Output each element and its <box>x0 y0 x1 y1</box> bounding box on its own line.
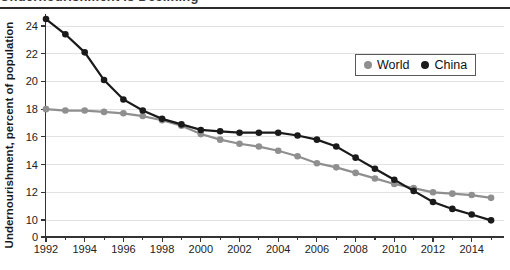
china-marker-icon <box>421 61 429 69</box>
world-data-point <box>236 140 243 147</box>
china-data-point <box>294 132 301 139</box>
china-data-point <box>178 121 185 128</box>
china-data-point <box>449 206 456 213</box>
china-data-point <box>333 143 340 150</box>
x-tick-label: 2002 <box>227 243 251 255</box>
x-tick-label: 1994 <box>72 243 96 255</box>
y-tick-label: 18 <box>26 103 38 115</box>
y-tick-label: 16 <box>26 131 38 143</box>
world-data-point <box>314 160 321 167</box>
y-tick-label: 0 <box>32 231 38 243</box>
line-chart: 0101214161820222419921994199619982000200… <box>0 10 510 270</box>
x-tick-label: 2012 <box>421 243 445 255</box>
china-data-point <box>391 177 398 184</box>
world-data-point <box>81 107 88 114</box>
china-data-point <box>159 116 166 123</box>
page-title-text: Undernourishment Is Declining <box>0 0 510 4</box>
world-data-point <box>430 189 437 196</box>
china-data-point <box>120 96 127 103</box>
y-tick-label: 14 <box>26 159 38 171</box>
china-data-point <box>81 49 88 56</box>
china-data-point <box>217 128 224 135</box>
china-data-point <box>352 154 359 161</box>
china-data-point <box>314 136 321 143</box>
legend-label-china: China <box>434 58 467 72</box>
legend-item-world: World <box>364 58 409 72</box>
figure: Undernourishment Is Declining 0101214161… <box>0 0 510 270</box>
y-tick-label: 10 <box>26 214 38 226</box>
china-data-point <box>275 129 282 136</box>
china-data-point <box>256 129 263 136</box>
world-data-point <box>294 153 301 160</box>
world-data-point <box>62 107 69 114</box>
china-data-point <box>372 165 379 172</box>
legend-item-china: China <box>421 58 467 72</box>
x-tick-label: 1996 <box>111 243 135 255</box>
china-data-point <box>488 217 495 224</box>
chart-area: 0101214161820222419921994199619982000200… <box>0 10 510 270</box>
x-tick-label: 2008 <box>343 243 367 255</box>
page-title: Undernourishment Is Declining <box>0 0 510 5</box>
world-data-point <box>333 164 340 171</box>
china-data-point <box>62 31 69 38</box>
china-data-point <box>430 199 437 206</box>
x-tick-label: 2000 <box>189 243 213 255</box>
china-data-point <box>468 211 475 218</box>
china-data-point <box>198 127 205 134</box>
world-data-point <box>217 136 224 143</box>
world-data-point <box>101 109 108 116</box>
china-data-point <box>101 77 108 84</box>
y-axis-label: Undernourishment, percent of population <box>3 22 15 249</box>
x-tick-label: 2010 <box>382 243 406 255</box>
y-tick-label: 12 <box>26 186 38 198</box>
x-tick-label: 2004 <box>266 243 290 255</box>
world-marker-icon <box>364 61 372 69</box>
x-tick-label: 1998 <box>150 243 174 255</box>
world-data-point <box>275 147 282 154</box>
x-tick-label: 2014 <box>459 243 483 255</box>
world-data-point <box>256 143 263 150</box>
y-tick-label: 20 <box>26 75 38 87</box>
china-data-point <box>139 107 146 114</box>
y-tick-label: 24 <box>26 20 38 32</box>
world-data-point <box>120 110 127 117</box>
china-data-point <box>236 129 243 136</box>
world-data-point <box>488 195 495 202</box>
world-data-point <box>449 190 456 197</box>
world-data-point <box>43 106 50 113</box>
x-tick-label: 1992 <box>34 243 58 255</box>
world-data-point <box>468 192 475 199</box>
china-data-point <box>410 188 417 195</box>
x-tick-label: 2006 <box>305 243 329 255</box>
world-data-point <box>372 175 379 182</box>
chart-legend: World China <box>355 54 476 76</box>
world-data-point <box>352 170 359 177</box>
y-tick-label: 22 <box>26 48 38 60</box>
world-series-line <box>46 109 491 198</box>
china-data-point <box>43 16 50 23</box>
legend-label-world: World <box>377 58 409 72</box>
header-divider <box>0 7 510 9</box>
